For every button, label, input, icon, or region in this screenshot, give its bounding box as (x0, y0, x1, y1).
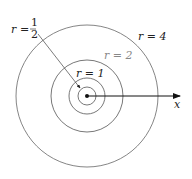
r-half-label-var: r (11, 23, 17, 36)
x-axis-label: x (174, 98, 181, 111)
polar-circles-diagram: r = 1 2 r = 1 r = 2 r = 4 x (0, 0, 192, 179)
r-half-pointer-arrow (38, 34, 80, 88)
r-half-label-denominator: 2 (31, 28, 38, 41)
r-2-label: r = 2 (104, 49, 132, 62)
origin-point (85, 94, 89, 98)
r-1-label: r = 1 (76, 67, 104, 80)
r-4-label: r = 4 (138, 30, 166, 43)
r-half-label-eq: = (20, 23, 29, 36)
